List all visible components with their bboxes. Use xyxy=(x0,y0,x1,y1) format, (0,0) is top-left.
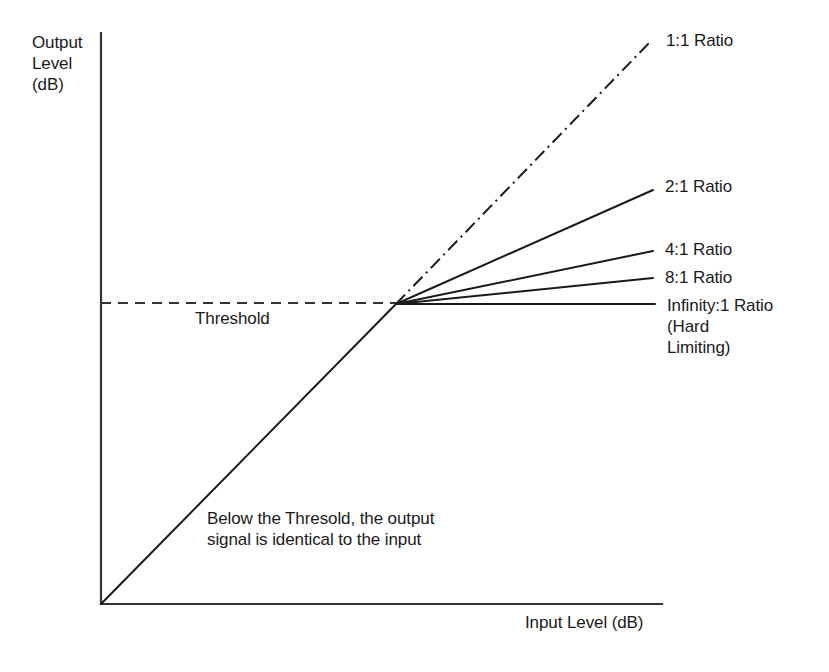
below-threshold-unity-line xyxy=(101,304,396,604)
y-axis-label-line-2: Level xyxy=(32,54,72,73)
ratio-label-infinity-1: Infinity:1 Ratio(HardLimiting) xyxy=(667,295,773,358)
ratio-line-1-1 xyxy=(396,42,650,304)
below-threshold-annotation: Below the Thresold, the outputsignal is … xyxy=(207,508,434,550)
ratio-label-infinity-1-line-1: Infinity:1 Ratio xyxy=(667,296,773,315)
threshold-label: Threshold xyxy=(195,308,270,329)
ratio-label-infinity-1-line-3: Limiting) xyxy=(667,338,730,357)
ratio-label-2-1: 2:1 Ratio xyxy=(665,176,732,197)
y-axis-label: OutputLevel(dB) xyxy=(32,32,82,95)
y-axis-label-line-3: (dB) xyxy=(32,75,64,94)
ratio-line-4-1 xyxy=(396,251,653,304)
below-threshold-annotation-line-2: signal is identical to the input xyxy=(207,530,421,549)
ratio-label-4-1: 4:1 Ratio xyxy=(665,239,732,260)
ratio-line-2-1 xyxy=(396,190,653,304)
ratio-label-infinity-1-line-2: (Hard xyxy=(667,317,709,336)
below-threshold-annotation-line-1: Below the Thresold, the output xyxy=(207,509,434,528)
y-axis-label-line-1: Output xyxy=(32,33,82,52)
x-axis-label: Input Level (dB) xyxy=(525,612,643,633)
ratio-line-8-1 xyxy=(396,278,653,304)
ratio-label-1-1: 1:1 Ratio xyxy=(666,30,733,51)
ratio-label-8-1: 8:1 Ratio xyxy=(665,267,732,288)
compressor-ratio-chart: OutputLevel(dB) Input Level (dB) Thresho… xyxy=(0,0,829,672)
